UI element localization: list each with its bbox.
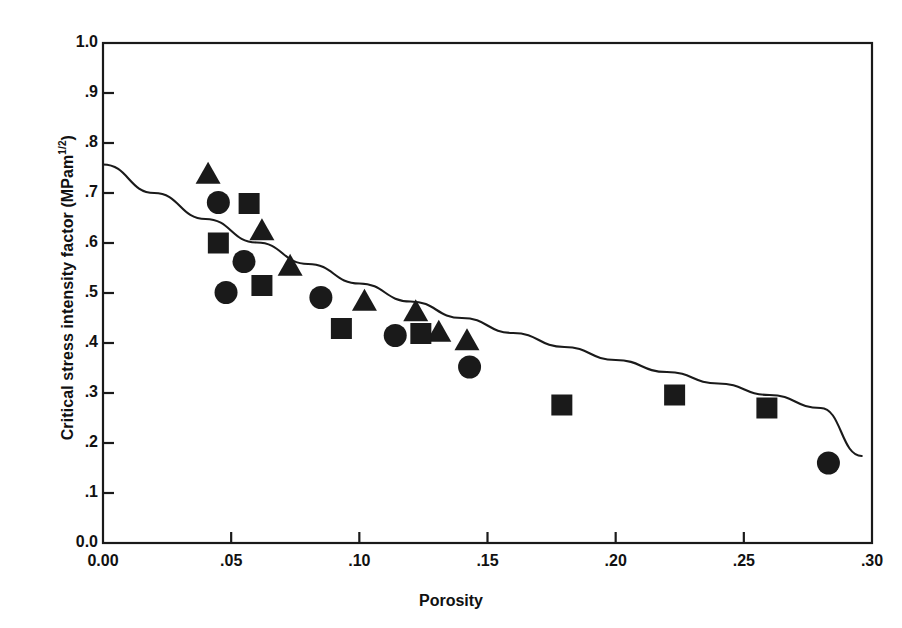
data-point-circle (309, 286, 332, 309)
data-point-circle (384, 324, 407, 347)
x-tick-label: .20 (576, 552, 656, 570)
figure-root: 0.0.1.2.3.4.5.6.7.8.91.0 0.00.05.10.15.2… (0, 0, 902, 628)
y-tick-label: 1.0 (42, 33, 98, 51)
x-tick-label: .15 (448, 552, 528, 570)
data-point-triangle (249, 218, 274, 240)
data-point-square (239, 193, 260, 214)
data-point-square (551, 395, 572, 416)
y-axis-title-main: Critical stress intensity factor (MPam (59, 155, 76, 441)
data-point-circle (232, 250, 255, 273)
data-point-square (208, 233, 229, 254)
data-point-square (331, 318, 352, 339)
data-point-circle (458, 356, 481, 379)
data-point-triangle (278, 254, 303, 276)
data-point-square (756, 398, 777, 419)
data-point-square (251, 275, 272, 296)
y-axis-title-suffix: ) (59, 135, 76, 140)
data-point-square (664, 385, 685, 406)
x-axis-title: Porosity (0, 592, 902, 610)
data-point-circle (215, 281, 238, 304)
scatter-plot-canvas (0, 0, 902, 628)
data-point-circle (817, 452, 840, 475)
y-axis-title-exponent: 1/2 (57, 140, 68, 154)
data-point-triangle (454, 328, 479, 350)
data-point-triangle (352, 289, 377, 311)
x-tick-label: 0.00 (63, 552, 143, 570)
data-point-square (410, 323, 431, 344)
x-tick-label: .05 (191, 552, 271, 570)
data-point-triangle (196, 162, 221, 184)
data-point-circle (207, 191, 230, 214)
y-axis-title: Critical stress intensity factor (MPam1/… (57, 53, 76, 523)
x-tick-label: .10 (319, 552, 399, 570)
y-tick-label: 0.0 (42, 533, 98, 551)
x-tick-label: .25 (704, 552, 784, 570)
data-markers (196, 162, 840, 475)
x-tick-label: .30 (832, 552, 902, 570)
